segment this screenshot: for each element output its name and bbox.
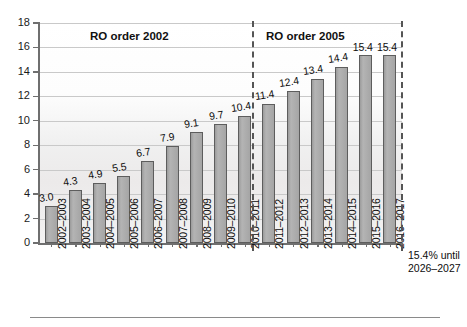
gridline (39, 23, 402, 24)
x-tick-mark (100, 243, 101, 247)
bar-value-label: 15.4 (377, 41, 397, 53)
y-tick-label: 14 (8, 66, 30, 77)
x-tick-mark (148, 243, 149, 247)
x-tick-mark (75, 243, 76, 247)
future-note-line1: 15.4% until (408, 249, 460, 262)
divider-right (401, 21, 403, 251)
x-tick-label: 2004–2005 (104, 198, 116, 249)
y-tick-mark (33, 96, 38, 97)
x-tick-label: 2008–2009 (201, 198, 213, 249)
y-tick-label: 12 (8, 90, 30, 101)
x-tick-label: 2007–2008 (177, 198, 189, 249)
x-tick-mark (51, 243, 52, 247)
section-title-2002: RO order 2002 (90, 30, 169, 42)
y-tick-mark (33, 242, 38, 243)
x-tick-mark (366, 243, 367, 247)
y-tick-mark (33, 71, 38, 72)
x-tick-label: 2012–2013 (298, 198, 310, 249)
y-tick-label: 18 (8, 17, 30, 28)
x-tick-label: 2006–2007 (152, 198, 164, 249)
x-tick-label: 2010–2011 (249, 199, 261, 249)
bar-value-label: 4.9 (87, 167, 103, 181)
bottom-rule (30, 317, 440, 318)
chart-root: 024681012141618 3.04.34.95.56.77.99.19.7… (0, 0, 467, 327)
x-tick-label: 2011–2012 (273, 199, 285, 249)
y-tick-mark (33, 22, 38, 23)
x-tick-mark (245, 243, 246, 247)
y-tick-label: 10 (8, 115, 30, 126)
y-tick-mark (33, 193, 38, 194)
x-tick-label: 2005–2006 (128, 198, 140, 249)
x-tick-mark (172, 243, 173, 247)
x-tick-mark (124, 243, 125, 247)
gridline (39, 47, 402, 48)
x-tick-label: 2014–2015 (346, 198, 358, 249)
x-tick-mark (317, 243, 318, 247)
x-tick-label: 2002–2003 (56, 198, 68, 249)
future-note-line2: 2026–2027 (408, 262, 461, 275)
divider-left (252, 21, 254, 251)
y-tick-label: 0 (8, 237, 30, 248)
x-tick-mark (293, 243, 294, 247)
y-tick-mark (33, 218, 38, 219)
y-tick-label: 4 (8, 188, 30, 199)
bar-value-label: 15.4 (353, 41, 373, 53)
bar-value-label: 9.1 (183, 116, 199, 130)
y-tick-mark (33, 120, 38, 121)
y-tick-label: 6 (8, 164, 30, 175)
bar-value-label: 6.7 (135, 145, 151, 159)
bar-value-label: 11.4 (254, 87, 275, 102)
x-tick-label: 2003–2004 (80, 198, 92, 249)
x-tick-mark (221, 243, 222, 247)
y-tick-mark (33, 145, 38, 146)
y-axis-line (38, 22, 40, 244)
x-tick-mark (390, 243, 391, 247)
x-tick-label: 2015–2016 (370, 198, 382, 249)
x-tick-mark (342, 243, 343, 247)
section-title-2005: RO order 2005 (266, 30, 345, 42)
y-tick-label: 8 (8, 139, 30, 150)
y-tick-label: 16 (8, 41, 30, 52)
y-tick-label: 2 (8, 213, 30, 224)
bar-value-label: 5.5 (111, 160, 127, 174)
y-tick-mark (33, 47, 38, 48)
x-tick-mark (196, 243, 197, 247)
y-tick-mark (33, 169, 38, 170)
x-tick-label: 2013–2014 (322, 198, 334, 249)
x-tick-mark (269, 243, 270, 247)
x-tick-label: 2009–2010 (225, 198, 237, 249)
